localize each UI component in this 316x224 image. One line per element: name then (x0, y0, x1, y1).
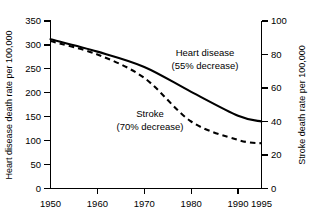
left-tick-label-150: 150 (25, 111, 41, 122)
x-tick-label-1990: 1990 (227, 198, 248, 209)
right-tick-label-0: 0 (271, 183, 276, 194)
left-tick-label-250: 250 (25, 63, 41, 74)
right-tick-label-60: 60 (271, 82, 282, 93)
left-tick-label-200: 200 (25, 87, 41, 98)
left-axis-title: Heart disease death rate per 100,000 (4, 30, 14, 179)
right-tick-label-20: 20 (271, 149, 282, 160)
left-tick-label-0: 0 (36, 183, 41, 194)
right-tick-label-100: 100 (271, 15, 287, 26)
annotation-heart-disease-change: (55% decrease) (171, 60, 238, 71)
right-tick-label-40: 40 (271, 116, 282, 127)
right-axis-title: Stroke death rate per 100,000 (297, 45, 307, 165)
annotation-heart-disease-label: Heart disease (176, 47, 235, 58)
right-tick-label-80: 80 (271, 49, 282, 60)
dual-axis-line-chart: 050100150200250300350 Heart disease deat… (0, 0, 316, 224)
left-tick-label-300: 300 (25, 39, 41, 50)
left-tick-label-100: 100 (25, 135, 41, 146)
x-tick-label-1995: 1995 (251, 198, 272, 209)
left-tick-label-50: 50 (30, 159, 41, 170)
annotation-stroke-label: Stroke (136, 108, 163, 119)
x-tick-label-1970: 1970 (134, 198, 155, 209)
x-tick-label-1980: 1980 (181, 198, 202, 209)
x-tick-label-1950: 1950 (40, 198, 61, 209)
chart-container: 050100150200250300350 Heart disease deat… (0, 0, 316, 224)
annotation-stroke-change: (70% decrease) (116, 121, 183, 132)
x-tick-label-1960: 1960 (87, 198, 108, 209)
left-tick-label-350: 350 (25, 15, 41, 26)
